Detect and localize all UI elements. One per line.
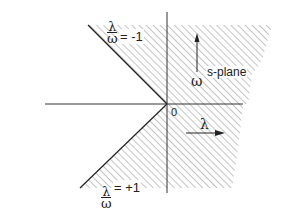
boundary-label-minus-one-value: = -1 xyxy=(119,29,144,44)
origin-label: 0 xyxy=(171,107,177,118)
s-plane-label: s-plane xyxy=(206,66,247,78)
fraction-denominator: ω xyxy=(107,33,118,44)
boundary-label-plus-one-fraction: λ ω xyxy=(101,187,112,209)
diagram-graphics xyxy=(0,0,288,210)
fraction-denominator: ω xyxy=(101,198,112,209)
boundary-label-minus-one-fraction: λ ω xyxy=(107,22,118,44)
omega-axis-label: ω xyxy=(191,74,202,88)
s-plane-diagram: λ ω = -1 λ ω = +1 ω s-plane 0 λ xyxy=(0,0,288,210)
lambda-axis-label: λ xyxy=(200,117,209,131)
boundary-label-plus-one-value: = +1 xyxy=(113,180,141,195)
